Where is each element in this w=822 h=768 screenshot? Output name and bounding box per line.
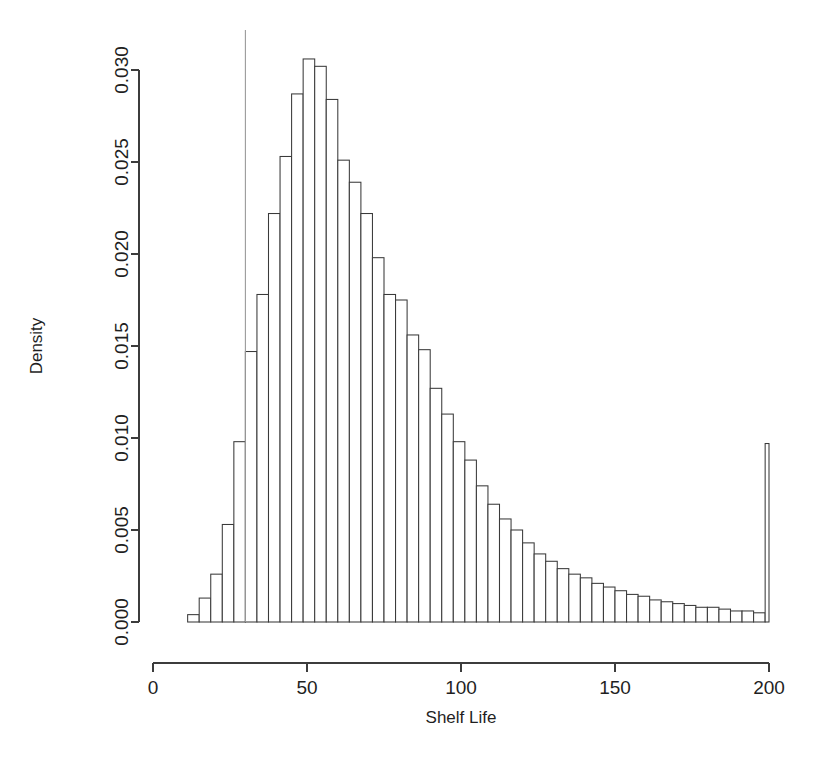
histogram-bar xyxy=(326,99,338,622)
y-axis-tick-label: 0.015 xyxy=(111,322,132,370)
histogram-bar xyxy=(280,156,292,622)
histogram-bar xyxy=(731,611,743,622)
histogram-bar xyxy=(465,460,477,622)
histogram-bar xyxy=(742,611,754,622)
histogram-bar xyxy=(234,442,246,622)
histogram-bar xyxy=(257,294,269,622)
histogram-bar xyxy=(269,214,281,622)
y-axis-tick-label: 0.010 xyxy=(111,414,132,462)
histogram-bar xyxy=(580,578,592,622)
y-axis-tick-label: 0.030 xyxy=(111,46,132,94)
histogram-bar xyxy=(707,607,719,622)
histogram-bar xyxy=(719,609,731,622)
histogram-bar xyxy=(534,554,546,622)
histogram-bar xyxy=(245,352,257,622)
histogram-bar xyxy=(188,615,200,622)
histogram-bar xyxy=(303,59,315,622)
page-caption xyxy=(0,748,822,768)
x-axis-tick-label: 200 xyxy=(753,677,785,698)
histogram-bar xyxy=(765,444,769,622)
histogram-bar xyxy=(500,519,512,622)
histogram-bar xyxy=(211,574,223,622)
histogram-bar xyxy=(488,504,500,622)
histogram-bar xyxy=(315,66,327,622)
histogram-bar xyxy=(384,294,396,622)
histogram-bars xyxy=(188,59,769,622)
y-axis-tick-label: 0.025 xyxy=(111,138,132,186)
y-axis-tick-label: 0.020 xyxy=(111,230,132,278)
histogram-figure: 0.0000.0050.0100.0150.0200.0250.030 0501… xyxy=(0,0,822,768)
x-axis-tick-label: 100 xyxy=(445,677,477,698)
histogram-bar xyxy=(442,414,454,622)
histogram-bar xyxy=(407,335,419,622)
histogram-bar xyxy=(546,561,558,622)
histogram-bar xyxy=(661,602,673,622)
histogram-plot: 0.0000.0050.0100.0150.0200.0250.030 0501… xyxy=(0,0,822,768)
histogram-bar xyxy=(511,530,523,622)
histogram-bar xyxy=(361,214,373,622)
histogram-bar xyxy=(372,258,384,622)
x-axis-tick-label: 0 xyxy=(148,677,159,698)
histogram-bar xyxy=(199,598,211,622)
histogram-bar xyxy=(430,388,442,622)
histogram-bar xyxy=(673,604,685,622)
histogram-bar xyxy=(476,486,488,622)
histogram-bar xyxy=(523,543,535,622)
histogram-bar xyxy=(603,587,615,622)
histogram-bar xyxy=(453,442,465,622)
histogram-bar xyxy=(557,569,569,622)
histogram-bar xyxy=(696,607,708,622)
histogram-bar xyxy=(615,591,627,622)
histogram-bar xyxy=(396,300,408,622)
histogram-bar xyxy=(569,574,581,622)
histogram-bar xyxy=(338,160,350,622)
x-axis-tick-label: 150 xyxy=(599,677,631,698)
y-axis: 0.0000.0050.0100.0150.0200.0250.030 xyxy=(111,46,139,646)
histogram-bar xyxy=(684,605,696,622)
y-axis-title: Density xyxy=(27,317,46,374)
histogram-bar xyxy=(292,94,304,622)
x-axis: 050100150200 xyxy=(148,663,785,698)
y-axis-tick-label: 0.005 xyxy=(111,506,132,554)
x-axis-tick-label: 50 xyxy=(296,677,317,698)
y-axis-tick-label: 0.000 xyxy=(111,598,132,646)
histogram-bar xyxy=(419,350,431,622)
histogram-bar xyxy=(638,596,650,622)
x-axis-title: Shelf Life xyxy=(426,708,497,727)
histogram-bar xyxy=(754,613,766,622)
histogram-bar xyxy=(349,182,361,622)
histogram-bar xyxy=(627,594,639,622)
histogram-bar xyxy=(592,583,604,622)
histogram-bar xyxy=(650,600,662,622)
histogram-bar xyxy=(222,524,234,622)
